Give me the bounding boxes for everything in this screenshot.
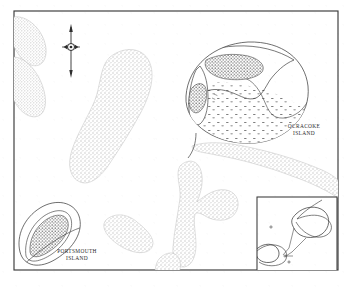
ocracoke-label-line2: ISLAND — [293, 130, 315, 136]
ocracoke-label-line1: OCRACOKE — [288, 123, 321, 129]
map-canvas: OCRACOKE ISLAND PORTSMOUTH ISLAND — [0, 0, 351, 288]
portsmouth-label-line2: ISLAND — [66, 255, 88, 261]
portsmouth-label-line1: PORTSMOUTH — [57, 248, 97, 254]
map-root: OCRACOKE ISLAND PORTSMOUTH ISLAND — [0, 0, 351, 288]
locator-inset — [256, 197, 337, 271]
